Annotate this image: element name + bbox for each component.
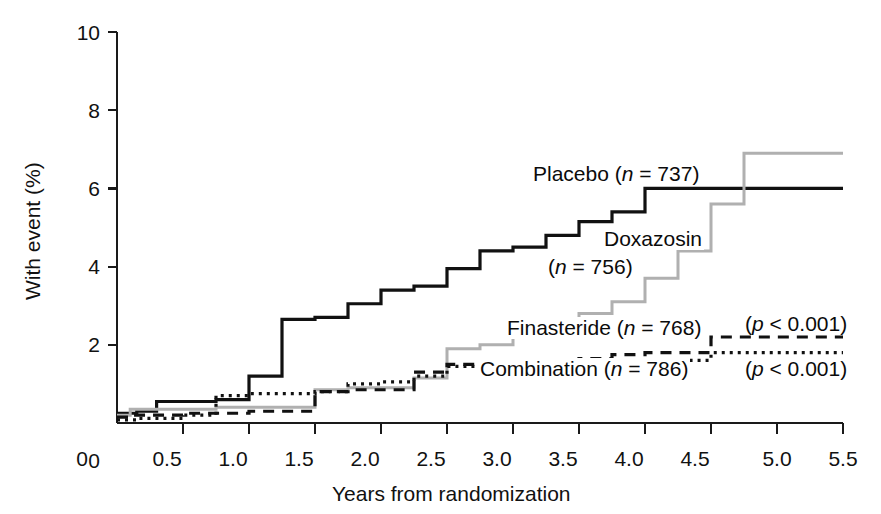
pvalue-combination-paren: ( xyxy=(745,357,752,380)
y-tick-label-2: 2 xyxy=(52,334,100,355)
x-tick-label-1-5: 1.5 xyxy=(284,448,313,469)
finasteride-n-rest: = 768) xyxy=(635,316,701,339)
doxazosin-annotation-line1: Doxazosin xyxy=(602,228,704,250)
x-tick-label-1-0: 1.0 xyxy=(218,448,247,469)
combination-n-rest: = 786) xyxy=(622,357,688,380)
x-tick-label-3-0: 3.0 xyxy=(482,448,511,469)
finasteride-label-text: Finasteride ( xyxy=(507,316,624,339)
placebo-n-italic: n xyxy=(622,162,634,185)
y-tick-label-8: 8 xyxy=(52,100,100,121)
doxazosin-label-text: Doxazosin xyxy=(604,227,702,250)
x-axis-title: Years from randomization xyxy=(332,483,571,504)
doxazosin-annotation-line2: (n = 756) xyxy=(546,256,635,278)
plot-area xyxy=(0,0,881,514)
y-tick-label-4: 4 xyxy=(52,256,100,277)
x-tick-label-2-5: 2.5 xyxy=(416,448,445,469)
doxazosin-paren-open: ( xyxy=(548,255,555,278)
placebo-n-rest: = 737) xyxy=(633,162,699,185)
pvalue-combination-p-italic: p xyxy=(752,357,764,380)
x-axis-title-text: Years from randomization xyxy=(332,482,571,505)
finasteride-n-italic: n xyxy=(624,316,636,339)
pvalue-finasteride: (p < 0.001) xyxy=(743,313,849,334)
combination-annotation: Combination (n = 786) xyxy=(478,358,690,380)
y-axis-title: With event (%) xyxy=(22,162,43,300)
y-tick-label-6: 6 xyxy=(52,178,100,199)
x-tick-label-4-5: 4.5 xyxy=(680,448,709,469)
combination-label-text: Combination ( xyxy=(480,357,611,380)
pvalue-finasteride-paren: ( xyxy=(745,312,752,335)
y-tick-label-10: 10 xyxy=(52,22,100,43)
kaplan-meier-figure: 10 8 6 4 2 0 0 0.5 1.0 1.5 2.0 2.5 3.0 3… xyxy=(0,0,881,514)
combination-n-italic: n xyxy=(611,357,623,380)
placebo-label-text: Placebo ( xyxy=(533,162,622,185)
pvalue-finasteride-p-italic: p xyxy=(752,312,764,335)
placebo-annotation: Placebo (n = 737) xyxy=(531,163,701,185)
pvalue-finasteride-rest: < 0.001) xyxy=(764,312,847,335)
pvalue-combination-rest: < 0.001) xyxy=(764,357,847,380)
doxazosin-n-rest: = 756) xyxy=(567,255,633,278)
doxazosin-n-italic: n xyxy=(555,255,567,278)
finasteride-annotation: Finasteride (n = 768) xyxy=(505,317,703,339)
x-tick-label-4-0: 4.0 xyxy=(614,448,643,469)
x-tick-label-2-0: 2.0 xyxy=(350,448,379,469)
x-tick-label-3-5: 3.5 xyxy=(548,448,577,469)
x-tick-label-0: 0 xyxy=(76,448,88,469)
x-tick-label-5-0: 5.0 xyxy=(762,448,791,469)
x-tick-label-0-5: 0.5 xyxy=(152,448,181,469)
pvalue-combination: (p < 0.001) xyxy=(743,358,849,379)
x-tick-label-5-5: 5.5 xyxy=(828,448,857,469)
axis-lines xyxy=(108,32,843,434)
